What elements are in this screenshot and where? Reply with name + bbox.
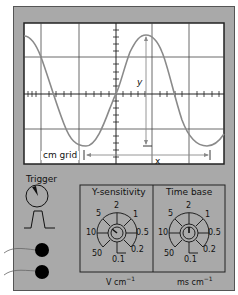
t-scale-0-5: 0.5 [208, 229, 221, 237]
y-scale-0-1: 0.1 [112, 256, 125, 264]
t-scale-1: 1 [205, 211, 210, 219]
y-scale-0-5: 0.5 [136, 229, 149, 237]
y-unit-text: V cm [106, 278, 126, 287]
y-scale-50: 50 [92, 250, 102, 258]
t-unit-text: ms cm [177, 278, 204, 287]
t-scale-5: 5 [168, 210, 173, 218]
trigger-pulse-icon [24, 211, 55, 228]
t-unit-exponent: −1 [204, 275, 213, 282]
y-sensitivity-unit: V cm−1 [106, 276, 135, 287]
y-scale-5: 5 [96, 210, 101, 218]
y-scale-1: 1 [133, 211, 138, 219]
x-label: x [155, 157, 160, 166]
t-scale-0-1: 0.1 [184, 256, 197, 264]
time-base-unit: ms cm−1 [177, 276, 213, 287]
control-panel [80, 185, 225, 272]
t-scale-0-2: 0.2 [203, 246, 216, 254]
t-scale-2: 2 [186, 202, 191, 210]
trigger-label: Trigger [26, 175, 57, 184]
time-base-title: Time base [166, 188, 212, 197]
trigger-knob[interactable] [26, 185, 48, 207]
y-scale-2: 2 [114, 202, 119, 210]
y-sensitivity-title: Y-sensitivity [92, 188, 146, 197]
input-socket-1[interactable] [4, 243, 49, 257]
y-scale-0-2: 0.2 [131, 246, 144, 254]
oscilloscope-screen [24, 23, 224, 164]
y-label: y [137, 78, 142, 87]
t-scale-50: 50 [164, 250, 174, 258]
input-socket-2[interactable] [4, 265, 49, 279]
grid-label: cm grid [41, 151, 79, 160]
t-scale-10: 10 [158, 229, 168, 237]
y-unit-exponent: −1 [126, 275, 135, 282]
y-scale-10: 10 [86, 229, 96, 237]
